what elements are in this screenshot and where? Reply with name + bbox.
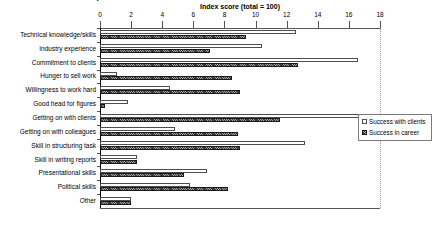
bar-success-in-career (100, 90, 240, 94)
y-axis-tick (97, 166, 100, 167)
x-axis-tick (131, 21, 132, 28)
y-axis-tick (97, 194, 100, 195)
x-axis-tick-label: 12 (283, 11, 290, 18)
chart-row: Skill in writing reports (0, 153, 439, 167)
bar-success-in-career (100, 63, 298, 67)
bar-success-with-clients (100, 44, 262, 48)
category-label: Commitment to clients (0, 59, 96, 66)
legend-item-success-in-career: Success in career (361, 129, 429, 136)
x-axis-tick-label: 14 (314, 11, 321, 18)
bar-success-in-career (100, 146, 240, 150)
category-label: Skill in structuring task (0, 142, 96, 149)
category-label: Presentational skills (0, 169, 96, 176)
x-axis-tick (100, 21, 101, 28)
y-axis-tick (97, 111, 100, 112)
category-label: Good head for figures (0, 100, 96, 107)
bar-success-with-clients (100, 169, 207, 173)
legend-swatch-hatched-icon (362, 130, 367, 135)
x-axis-tick-label: 18 (376, 11, 383, 18)
chart-row: Commitment to clients (0, 56, 439, 70)
bar-success-with-clients (100, 86, 170, 90)
chart-title: Importance of attributes for success wit… (60, 0, 400, 1)
x-axis-tick-label: 8 (223, 11, 227, 18)
x-axis-tick (162, 21, 163, 28)
chart-row: Other (0, 194, 439, 208)
legend-label: Success with clients (369, 118, 425, 125)
bar-success-in-career (100, 132, 238, 136)
chart-row: Political skills (0, 180, 439, 194)
bar-success-in-career (100, 173, 184, 177)
y-axis-tick (97, 97, 100, 98)
legend-swatch-hollow-icon (362, 119, 367, 124)
x-axis-tick (349, 21, 350, 28)
y-axis-tick (97, 139, 100, 140)
bar-success-in-career (100, 76, 232, 80)
x-axis-title: Index score (total = 100) (100, 3, 380, 10)
x-axis-tick-label: 6 (192, 11, 196, 18)
y-axis-tick (97, 125, 100, 126)
chart-row: Skill in structuring task (0, 139, 439, 153)
bar-success-with-clients (100, 114, 360, 118)
bar-chart: Importance of attributes for success wit… (0, 0, 439, 226)
plot-bottom-rule (100, 208, 380, 209)
y-axis-tick (97, 153, 100, 154)
y-axis-tick (97, 83, 100, 84)
x-axis-tick-label: 16 (345, 11, 352, 18)
bar-success-with-clients (100, 58, 358, 62)
category-label: Hunger to sell work (0, 72, 96, 79)
x-axis-tick-label: 2 (129, 11, 133, 18)
x-axis-tick (287, 21, 288, 28)
bar-success-in-career (100, 49, 210, 53)
category-label: Political skills (0, 183, 96, 190)
category-label: Technical knowledge/skills (0, 31, 96, 38)
chart-row: Industry experience (0, 42, 439, 56)
x-axis-tick-label: 0 (98, 11, 102, 18)
chart-row: Hunger to sell work (0, 70, 439, 84)
bar-success-with-clients (100, 183, 190, 187)
x-axis-tick-label: 4 (160, 11, 164, 18)
x-axis-tick (256, 21, 257, 28)
y-axis-tick (97, 42, 100, 43)
legend-label: Success in career (369, 129, 419, 136)
y-axis-tick (97, 56, 100, 57)
bar-success-in-career (100, 104, 105, 108)
y-axis-tick (97, 70, 100, 71)
category-label: Willingness to work hard (0, 86, 96, 93)
chart-row: Willingness to work hard (0, 83, 439, 97)
category-label: Other (0, 197, 96, 204)
y-axis-tick (97, 180, 100, 181)
bar-success-with-clients (100, 197, 131, 201)
chart-row: Presentational skills (0, 166, 439, 180)
x-axis-tick (193, 21, 194, 28)
bar-success-in-career (100, 160, 137, 164)
bar-success-with-clients (100, 155, 137, 159)
bar-success-with-clients (100, 30, 296, 34)
x-axis-tick-label: 10 (252, 11, 259, 18)
bar-success-in-career (100, 35, 246, 39)
category-label: Getting on with colleagues (0, 128, 96, 135)
category-label: Getting on with clients (0, 114, 96, 121)
x-axis-tick (318, 21, 319, 28)
x-axis-tick (224, 21, 225, 28)
bar-success-in-career (100, 187, 228, 191)
bar-success-with-clients (100, 127, 175, 131)
bar-success-with-clients (100, 100, 128, 104)
y-axis-tick (97, 28, 100, 29)
chart-row: Technical knowledge/skills (0, 28, 439, 42)
x-axis-tick (380, 21, 381, 28)
chart-legend: Success with clients Success in career (358, 114, 432, 141)
bar-success-with-clients (100, 141, 305, 145)
chart-row: Good head for figures (0, 97, 439, 111)
category-label: Industry experience (0, 45, 96, 52)
bar-success-in-career (100, 201, 131, 205)
bar-success-with-clients (100, 72, 117, 76)
category-label: Skill in writing reports (0, 156, 96, 163)
bar-success-in-career (100, 118, 280, 122)
legend-item-success-with-clients: Success with clients (361, 118, 429, 125)
